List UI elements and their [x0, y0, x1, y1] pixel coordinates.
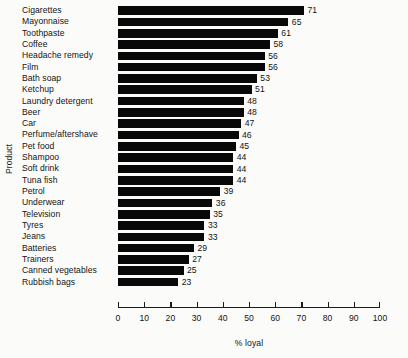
bar-value-label: 27 [192, 255, 202, 264]
bar-track: 48 [118, 108, 380, 117]
bar [118, 40, 270, 49]
category-label: Car [22, 118, 36, 129]
bar-track: 25 [118, 266, 380, 275]
bar-value-label: 44 [237, 165, 247, 174]
chart-plot-area: Cigarettes71Mayonnaise65Toothpaste61Coff… [0, 5, 408, 288]
chart-row: Batteries29 [0, 243, 408, 254]
bar-value-label: 25 [187, 266, 197, 275]
bar-value-label: 29 [197, 244, 207, 253]
bar-track: 44 [118, 176, 380, 185]
x-axis-tick [301, 302, 302, 308]
bar-track: 36 [118, 199, 380, 208]
category-label: Jeans [22, 231, 45, 242]
chart-row: Television35 [0, 209, 408, 220]
bar [118, 97, 244, 106]
category-label: Bath soap [22, 73, 61, 84]
bar [118, 6, 304, 15]
bar-track: 51 [118, 85, 380, 94]
bar-value-label: 48 [247, 108, 257, 117]
bar-track: 46 [118, 131, 380, 140]
category-label: Cigarettes [22, 5, 62, 16]
x-axis-title: % loyal [118, 338, 380, 348]
bar-track: 48 [118, 97, 380, 106]
category-label: Shampoo [22, 152, 59, 163]
chart-row: Tuna fish44 [0, 175, 408, 186]
bar-value-label: 65 [292, 18, 302, 27]
x-axis-line [118, 307, 380, 308]
chart-row: Shampoo44 [0, 152, 408, 163]
bar [118, 210, 210, 219]
bar [118, 18, 288, 27]
category-label: Underwear [22, 197, 64, 208]
bar-value-label: 61 [281, 29, 291, 38]
bar-value-label: 53 [260, 74, 270, 83]
bar-track: 44 [118, 165, 380, 174]
category-label: Perfume/aftershave [22, 129, 98, 140]
category-label: Tuna fish [22, 175, 57, 186]
category-label: Television [22, 209, 60, 220]
bar-value-label: 46 [242, 131, 252, 140]
bar-value-label: 23 [182, 278, 192, 287]
category-label: Petrol [22, 186, 45, 197]
bar-value-label: 45 [239, 142, 249, 151]
bar-value-label: 36 [216, 199, 226, 208]
bar-track: 71 [118, 6, 380, 15]
chart-row: Petrol39 [0, 186, 408, 197]
chart-row: Toothpaste61 [0, 28, 408, 39]
bar-value-label: 44 [237, 153, 247, 162]
chart-row: Pet food45 [0, 141, 408, 152]
category-label: Trainers [22, 254, 54, 265]
category-label: Coffee [22, 39, 47, 50]
chart-row: Film56 [0, 62, 408, 73]
chart-row: Canned vegetables25 [0, 265, 408, 276]
bar [118, 199, 212, 208]
bar [118, 153, 233, 162]
bar-track: 61 [118, 29, 380, 38]
brand-loyalty-bar-chart: Product Cigarettes71Mayonnaise65Toothpas… [0, 0, 408, 358]
category-label: Film [22, 62, 38, 73]
category-label: Ketchup [22, 84, 54, 95]
category-label: Canned vegetables [22, 265, 97, 276]
bar-track: 27 [118, 255, 380, 264]
chart-row: Coffee58 [0, 39, 408, 50]
bar-track: 58 [118, 40, 380, 49]
bar-value-label: 33 [208, 221, 218, 230]
bar [118, 85, 252, 94]
bar [118, 108, 244, 117]
category-label: Rubbish bags [22, 277, 75, 288]
bar [118, 266, 184, 275]
chart-row: Trainers27 [0, 254, 408, 265]
chart-row: Car47 [0, 118, 408, 129]
category-label: Headache remedy [22, 50, 93, 61]
x-axis-tick [328, 302, 329, 308]
chart-row: Headache remedy56 [0, 50, 408, 61]
bar [118, 244, 194, 253]
bar-value-label: 56 [268, 63, 278, 72]
category-label: Laundry detergent [22, 96, 93, 107]
bar-value-label: 35 [213, 210, 223, 219]
x-axis-tick [170, 302, 171, 308]
bar [118, 176, 233, 185]
chart-row: Mayonnaise65 [0, 16, 408, 27]
bar [118, 142, 236, 151]
x-axis-tick-label: 100 [365, 313, 395, 323]
bar [118, 221, 204, 230]
chart-row: Laundry detergent48 [0, 96, 408, 107]
bar-track: 65 [118, 18, 380, 27]
bar-track: 56 [118, 52, 380, 61]
bar-track: 44 [118, 153, 380, 162]
bar [118, 131, 239, 140]
bar [118, 233, 204, 242]
x-axis-tick [379, 302, 380, 308]
bar [118, 119, 241, 128]
category-label: Batteries [22, 243, 56, 254]
chart-row: Perfume/aftershave46 [0, 129, 408, 140]
x-axis-tick [249, 302, 250, 308]
x-axis-tick [275, 302, 276, 308]
category-label: Toothpaste [22, 28, 65, 39]
bar [118, 63, 265, 72]
chart-row: Jeans33 [0, 231, 408, 242]
chart-row: Ketchup51 [0, 84, 408, 95]
bar-track: 33 [118, 221, 380, 230]
bar-value-label: 58 [273, 40, 283, 49]
